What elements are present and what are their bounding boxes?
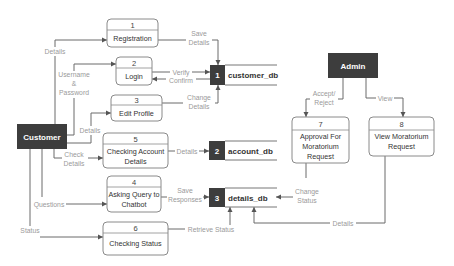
label-verify: Verify — [173, 69, 191, 77]
datastore-name: customer_db — [228, 71, 278, 80]
process-label-line1: Approval For — [300, 132, 342, 141]
process-number: 1 — [130, 21, 134, 30]
label-save-responses: Responses — [168, 196, 203, 204]
process-number: 8 — [399, 120, 403, 129]
label-details-admin: Details — [333, 220, 354, 227]
process-edit-profile[interactable]: 3 Edit Profile — [111, 95, 162, 121]
process-label: Registration — [113, 34, 151, 43]
process-number: 6 — [133, 224, 137, 233]
process-number: 5 — [133, 135, 137, 144]
process-number: 3 — [134, 96, 138, 105]
process-checking-account-details[interactable]: 5 Checking Account Details — [103, 133, 168, 168]
process-label-line3: Request — [307, 152, 334, 161]
label-check: Check — [64, 151, 84, 158]
process-label-line2: Moratorium — [302, 142, 338, 151]
label-confirm: Confirm — [169, 77, 193, 84]
label-save: Save — [191, 30, 207, 37]
label-check-details: Details — [64, 160, 85, 167]
process-asking-query-chatbot[interactable]: 4 Asking Query to Chatbot — [107, 176, 161, 212]
label-details-registration: Details — [45, 48, 66, 55]
datastore-name: account_db — [228, 147, 273, 156]
entity-customer-label: Customer — [23, 133, 60, 142]
process-label-line1: Checking Account — [107, 147, 165, 156]
label-view: View — [378, 95, 393, 102]
process-approval-moratorium[interactable]: 7 Approval For Moratorium Request — [292, 117, 349, 163]
label-change-status: Status — [297, 197, 317, 204]
process-view-moratorium[interactable]: 8 View Moratorium Request — [369, 117, 434, 156]
entity-admin[interactable]: Admin — [328, 53, 378, 78]
label-save-resp: Save — [177, 187, 193, 194]
datastore-id: 1 — [215, 71, 220, 80]
process-checking-status[interactable]: 6 Checking Status — [103, 222, 168, 255]
process-label-line2: Details — [125, 157, 147, 166]
label-reject: Reject — [314, 99, 333, 107]
datastore-customer-db[interactable]: 1 customer_db — [210, 65, 278, 85]
label-status: Status — [20, 227, 40, 234]
label-ampersand: & — [72, 80, 77, 87]
label-save-details: Details — [189, 39, 210, 46]
entity-customer[interactable]: Customer — [17, 124, 67, 149]
process-label-line1: View Moratorium — [375, 132, 429, 141]
process-label-line2: Request — [388, 142, 415, 151]
dfd-diagram: Customer Admin 1 Registration 2 Login 3 … — [0, 0, 454, 266]
label-retrieve-status: Retrieve Status — [188, 226, 235, 233]
datastore-account-db[interactable]: 2 account_db — [209, 141, 277, 160]
label-change-details: Details — [189, 103, 210, 110]
datastore-id: 3 — [215, 194, 220, 203]
label-accept: Accept/ — [313, 90, 336, 98]
process-label: Login — [125, 72, 143, 81]
label-change-s: Change — [295, 188, 319, 196]
process-number: 2 — [132, 59, 136, 68]
datastore-id: 2 — [215, 147, 220, 156]
process-number: 4 — [132, 178, 136, 187]
label-username: Username — [58, 71, 90, 78]
process-label: Checking Status — [109, 239, 162, 248]
process-login[interactable]: 2 Login — [116, 57, 152, 85]
process-number: 7 — [318, 120, 322, 129]
process-label: Edit Profile — [119, 109, 154, 118]
process-label-line2: Chatbot — [121, 200, 146, 209]
label-questions: Questions — [34, 201, 65, 209]
label-details-edit: Details — [80, 127, 101, 134]
process-label-line1: Asking Query to — [108, 190, 159, 199]
label-details-account: Details — [177, 148, 198, 155]
label-change: Change — [187, 94, 211, 102]
datastore-details-db[interactable]: 3 details_db — [209, 188, 277, 207]
entity-admin-label: Admin — [341, 62, 366, 71]
process-registration[interactable]: 1 Registration — [107, 19, 158, 47]
datastore-name: details_db — [228, 194, 268, 203]
label-password: Password — [59, 89, 89, 96]
